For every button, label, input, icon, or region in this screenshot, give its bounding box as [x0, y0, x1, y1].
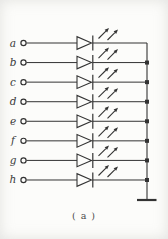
- terminal-f: [21, 138, 26, 143]
- led-anode-triangle-c: [77, 76, 92, 89]
- light-emission-arrow: [99, 67, 110, 78]
- led-anode-triangle-g: [77, 154, 92, 167]
- light-emission-arrow: [108, 69, 119, 80]
- light-emission-arrow: [99, 145, 110, 156]
- light-emission-arrow: [99, 126, 110, 137]
- light-emission-arrow: [108, 127, 119, 138]
- light-emission-arrow: [99, 165, 110, 176]
- led-anode-triangle-d: [77, 95, 92, 108]
- circuit-svg: abcdefgh: [0, 0, 168, 239]
- light-emission-arrow: [108, 88, 119, 99]
- figure-caption: ( a ): [0, 210, 168, 221]
- light-emission-arrow: [99, 106, 110, 117]
- input-label-g: g: [10, 154, 17, 166]
- led-anode-triangle-a: [77, 37, 92, 50]
- led-anode-triangle-e: [77, 115, 92, 128]
- light-emission-arrow: [108, 166, 119, 177]
- terminal-e: [21, 119, 26, 124]
- terminal-b: [21, 60, 26, 65]
- light-emission-arrow: [108, 108, 119, 119]
- input-label-d: d: [10, 95, 17, 107]
- input-label-e: e: [10, 115, 16, 127]
- terminal-g: [21, 158, 26, 163]
- terminal-h: [21, 177, 26, 182]
- input-label-c: c: [10, 76, 16, 88]
- input-label-f: f: [10, 134, 17, 146]
- input-label-a: a: [10, 37, 16, 49]
- light-emission-arrow: [99, 28, 110, 39]
- led-anode-triangle-f: [77, 135, 92, 148]
- led-anode-triangle-h: [77, 174, 92, 187]
- terminal-c: [21, 80, 26, 85]
- circuit-diagram: abcdefgh ( a ): [0, 0, 168, 239]
- light-emission-arrow: [108, 49, 119, 60]
- input-label-b: b: [10, 56, 17, 68]
- light-emission-arrow: [108, 30, 119, 41]
- light-emission-arrow: [108, 147, 119, 158]
- terminal-a: [21, 40, 26, 45]
- led-anode-triangle-b: [77, 56, 92, 69]
- light-emission-arrow: [99, 87, 110, 98]
- light-emission-arrow: [99, 48, 110, 59]
- terminal-d: [21, 99, 26, 104]
- input-label-h: h: [10, 173, 17, 185]
